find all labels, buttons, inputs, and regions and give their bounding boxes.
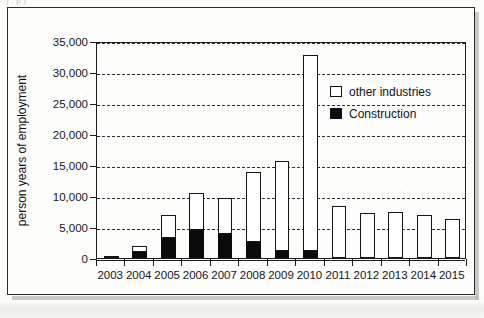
bar-2010 bbox=[303, 55, 318, 258]
bar-segment-construction-2005 bbox=[161, 238, 176, 258]
bar-segment-other-industries-2013 bbox=[388, 212, 403, 258]
bar-2006 bbox=[189, 193, 204, 258]
bar-2003 bbox=[104, 256, 119, 258]
bar-segment-other-industries-2003 bbox=[104, 256, 119, 258]
x-axis-label-2009: 2009 bbox=[268, 269, 294, 281]
legend-label: Construction bbox=[349, 107, 416, 121]
x-tick-2009 bbox=[267, 259, 268, 266]
x-axis-label-2006: 2006 bbox=[183, 269, 209, 281]
x-tick-2008 bbox=[238, 259, 239, 266]
x-tick-2010 bbox=[295, 259, 296, 266]
x-axis-label-2008: 2008 bbox=[240, 269, 266, 281]
x-tick-end bbox=[466, 259, 467, 266]
x-tick-2015 bbox=[438, 259, 439, 266]
x-tick-2012 bbox=[352, 259, 353, 266]
bar-segment-other-industries-2015 bbox=[445, 219, 460, 258]
bar-2008 bbox=[246, 172, 261, 258]
bar-segment-other-industries-2005 bbox=[161, 215, 176, 238]
x-axis-label-2014: 2014 bbox=[411, 269, 437, 281]
y-axis-label: 25,000 bbox=[18, 98, 88, 110]
bar-segment-other-industries-2008 bbox=[246, 172, 261, 242]
legend-label: other industries bbox=[349, 85, 431, 99]
y-axis-label: 30,000 bbox=[18, 67, 88, 79]
x-axis-label-2003: 2003 bbox=[97, 269, 123, 281]
bar-2015 bbox=[445, 219, 460, 258]
bar-segment-other-industries-2011 bbox=[332, 206, 347, 258]
bar-segment-other-industries-2012 bbox=[360, 213, 375, 258]
hollow-square-icon bbox=[330, 86, 342, 97]
bar-segment-construction-2006 bbox=[189, 230, 204, 258]
y-axis-label: 35,000 bbox=[18, 36, 88, 48]
bar-2005 bbox=[161, 215, 176, 258]
x-tick-2004 bbox=[124, 259, 125, 266]
bar-segment-other-industries-2010 bbox=[303, 55, 318, 251]
legend-item-other-industries: other industries bbox=[330, 82, 462, 101]
bar-2004 bbox=[132, 246, 147, 258]
x-axis-label-2015: 2015 bbox=[439, 269, 465, 281]
x-axis-label-2012: 2012 bbox=[354, 269, 380, 281]
bar-segment-construction-2010 bbox=[303, 251, 318, 258]
bar-2012 bbox=[360, 213, 375, 258]
bar-2011 bbox=[332, 206, 347, 258]
bar-segment-other-industries-2009 bbox=[275, 161, 290, 251]
frame-shadow-right bbox=[475, 12, 479, 300]
plot-area bbox=[96, 42, 466, 259]
x-tick-2005 bbox=[153, 259, 154, 266]
bar-2007 bbox=[218, 198, 233, 258]
x-axis-label-2005: 2005 bbox=[154, 269, 180, 281]
gridline-30000 bbox=[97, 74, 465, 75]
gridline-35000 bbox=[97, 43, 465, 44]
bar-2009 bbox=[275, 161, 290, 258]
bar-segment-other-industries-2007 bbox=[218, 198, 233, 235]
bar-segment-construction-2009 bbox=[275, 251, 290, 258]
bar-2013 bbox=[388, 212, 403, 258]
bar-segment-other-industries-2006 bbox=[189, 193, 204, 231]
bar-segment-other-industries-2014 bbox=[417, 215, 432, 258]
bar-2014 bbox=[417, 215, 432, 258]
x-axis-label-2004: 2004 bbox=[126, 269, 152, 281]
scanned-figure-page: ) , p ) person years of employment 05,00… bbox=[0, 0, 484, 318]
x-axis-label-2011: 2011 bbox=[326, 269, 351, 281]
bar-segment-construction-2008 bbox=[246, 242, 261, 258]
x-tick-2003 bbox=[96, 259, 97, 266]
x-tick-2013 bbox=[381, 259, 382, 266]
bar-segment-construction-2004 bbox=[132, 252, 147, 258]
y-axis-label: 0 bbox=[18, 253, 88, 265]
frame-shadow-bottom bbox=[12, 296, 479, 300]
x-tick-2014 bbox=[409, 259, 410, 266]
x-tick-2011 bbox=[324, 259, 325, 266]
cropped-caption-text: ) , p ) bbox=[6, 0, 476, 6]
x-axis-label-2007: 2007 bbox=[211, 269, 237, 281]
gridline-20000 bbox=[97, 136, 465, 137]
legend-item-construction: Construction bbox=[330, 104, 462, 123]
x-tick-2007 bbox=[210, 259, 211, 266]
y-axis-label: 10,000 bbox=[18, 191, 88, 203]
y-axis-label: 15,000 bbox=[18, 160, 88, 172]
chart-legend: other industriesConstruction bbox=[330, 82, 462, 126]
x-tick-2006 bbox=[181, 259, 182, 266]
filled-square-icon bbox=[330, 108, 342, 119]
y-axis-label: 5,000 bbox=[18, 222, 88, 234]
y-axis-label: 20,000 bbox=[18, 129, 88, 141]
bar-segment-construction-2007 bbox=[218, 234, 233, 258]
x-axis-label-2010: 2010 bbox=[297, 269, 323, 281]
page-bottom-edge bbox=[0, 303, 484, 318]
x-axis-label-2013: 2013 bbox=[382, 269, 408, 281]
